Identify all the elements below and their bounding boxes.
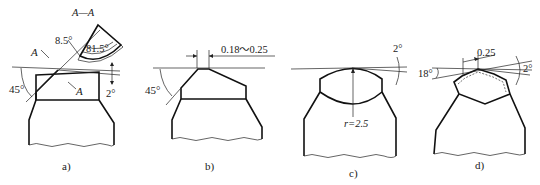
panel-c-head (320, 69, 382, 105)
panel-a-angle-2: 2° (106, 88, 115, 99)
panel-d-land-width: 0.25 (477, 47, 495, 58)
panel-a-angle-8-5: 8.5° (55, 35, 72, 46)
panel-c: r=2.5 2° c) (291, 43, 407, 180)
panel-a-break-line (29, 144, 114, 147)
panel-c-break-line (304, 155, 396, 158)
panel-b-break-line (172, 138, 262, 141)
panel-d: 0.25 18° 2° d) (418, 47, 532, 172)
panel-b-angle-45: 45° (145, 84, 160, 96)
panel-a-shank (29, 100, 114, 145)
panel-c-radius: r=2.5 (344, 118, 368, 129)
panel-a-section-label: A—A (71, 7, 95, 18)
panel-b: 0.18～0.25 45° b) (145, 44, 275, 173)
panel-b-shank (172, 99, 262, 139)
panel-d-head (454, 69, 510, 104)
panel-b-head (181, 69, 246, 99)
panel-d-shank (434, 94, 525, 154)
panel-a-cut-mark-1: A (30, 46, 38, 58)
panel-d-angle-18: 18° (418, 68, 433, 79)
panel-d-angle-2: 2° (523, 63, 532, 74)
panel-d-caption: d) (475, 159, 485, 172)
panel-b-land-width: 0.18～0.25 (221, 44, 268, 55)
panel-a-cut-mark-2: A (75, 85, 83, 97)
panel-b-45deg-arc (160, 69, 172, 96)
panel-a-caption: a) (62, 160, 71, 173)
panel-b-caption: b) (205, 160, 215, 173)
panel-d-break-line (434, 153, 525, 156)
panel-c-caption: c) (349, 167, 358, 180)
panel-a-head (36, 72, 99, 100)
tool-geometry-diagram: 45° A A A—A 81.5° 8.5° 2° a) 0.18～0.25 (0, 0, 540, 185)
panel-a-angle-45: 45° (9, 83, 24, 95)
panel-c-angle-2: 2° (393, 43, 402, 54)
panel-a: 45° A A A—A 81.5° 8.5° 2° a) (9, 7, 123, 173)
panel-a-angle-81-5: 81.5° (86, 43, 109, 54)
